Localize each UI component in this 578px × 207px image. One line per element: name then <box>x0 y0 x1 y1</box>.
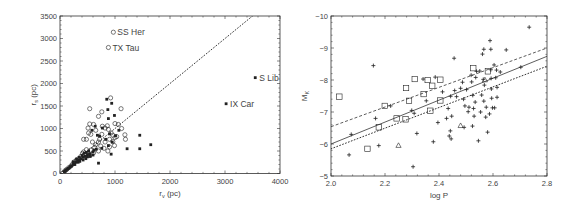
y-tick-label: −5 <box>319 172 328 181</box>
y-tick-label: 1000 <box>40 124 57 133</box>
data-point <box>149 143 152 146</box>
data-point <box>94 125 97 128</box>
data-point <box>106 45 110 49</box>
data-point <box>430 83 435 88</box>
data-point <box>472 106 476 110</box>
x-tick-label: 2000 <box>162 177 179 186</box>
figure: 0100020003000400005001000150020002500300… <box>0 0 578 207</box>
data-point <box>105 98 108 101</box>
data-point <box>489 47 493 51</box>
data-point <box>412 76 417 81</box>
data-point <box>467 105 471 109</box>
y-tick-label: 2500 <box>40 57 57 66</box>
data-point <box>101 127 104 130</box>
x-tick-label: 2.4 <box>434 179 444 188</box>
data-point <box>88 107 92 111</box>
data-point <box>504 48 508 52</box>
data-point <box>254 76 257 79</box>
data-point <box>470 80 474 84</box>
data-point <box>138 134 141 137</box>
data-point <box>107 144 110 147</box>
data-point <box>479 110 483 114</box>
data-point <box>82 137 86 141</box>
y-tick-label: 3000 <box>40 34 57 43</box>
x-axis-label: rv (pc) <box>159 189 181 199</box>
data-point <box>470 124 474 128</box>
data-point <box>93 149 96 152</box>
data-point <box>455 95 459 99</box>
y-tick-label: −8 <box>319 76 328 85</box>
data-point <box>347 153 351 157</box>
data-point <box>452 56 456 60</box>
plot-area <box>60 16 257 175</box>
data-point <box>349 132 353 136</box>
dashed-line <box>331 48 547 127</box>
data-point <box>411 165 415 169</box>
y-tick-label: −6 <box>319 140 328 149</box>
data-point <box>466 110 470 114</box>
data-point <box>86 126 90 130</box>
data-point <box>82 159 85 162</box>
x-tick-label: 2.6 <box>488 179 498 188</box>
data-point <box>471 65 476 70</box>
data-point <box>445 116 449 120</box>
data-point <box>86 155 89 158</box>
data-point <box>100 147 103 150</box>
solid-line <box>331 56 547 144</box>
x-tick-label: 0 <box>58 177 62 186</box>
data-point <box>478 69 482 73</box>
data-point <box>424 99 428 103</box>
plot-area <box>331 25 547 169</box>
right-scatter-plot: 2.02.22.42.62.8−10−9−8−7−6−5log PMK <box>300 12 552 200</box>
data-point <box>97 162 100 165</box>
data-point <box>425 77 430 82</box>
data-point <box>495 68 499 72</box>
data-point <box>403 85 408 90</box>
data-point <box>90 140 94 144</box>
data-point <box>484 115 488 119</box>
data-point <box>396 143 401 148</box>
data-point <box>88 122 92 126</box>
data-point <box>89 155 92 158</box>
y-tick-label: 0 <box>53 169 57 178</box>
y-tick-label: 3500 <box>40 12 57 21</box>
data-point <box>104 138 107 141</box>
data-point <box>446 106 450 110</box>
x-axis-label: log P <box>430 191 448 200</box>
data-point <box>377 144 381 148</box>
data-point <box>498 70 502 74</box>
data-point <box>119 107 123 111</box>
data-point <box>73 163 76 166</box>
data-point <box>441 90 445 94</box>
data-point <box>123 137 127 141</box>
left-scatter-plot: 0100020003000400005001000150020002500300… <box>29 12 288 199</box>
plus-series <box>347 25 531 169</box>
data-point <box>449 137 453 141</box>
data-point <box>488 39 492 43</box>
data-point <box>447 134 451 138</box>
data-point <box>374 116 378 120</box>
data-point <box>438 77 443 82</box>
data-point <box>123 133 127 137</box>
squares-series <box>337 65 491 151</box>
x-tick-label: 2.2 <box>380 179 390 188</box>
y-tick-label: 500 <box>44 147 57 156</box>
data-point <box>476 139 480 143</box>
data-point <box>450 114 454 118</box>
data-point <box>138 147 141 150</box>
y-tick-label: −9 <box>319 44 328 53</box>
data-point <box>448 129 452 133</box>
data-point <box>493 106 497 110</box>
data-point <box>495 95 499 99</box>
data-point <box>487 112 491 116</box>
y-tick-label: −7 <box>319 108 328 117</box>
data-point <box>473 100 477 104</box>
data-point <box>114 134 117 137</box>
data-point <box>92 154 95 157</box>
data-point <box>98 135 101 138</box>
data-point <box>389 104 393 108</box>
data-point <box>78 160 81 163</box>
filled-circles-series <box>63 76 257 173</box>
data-point <box>433 75 437 79</box>
star-label: SS Her <box>117 27 145 37</box>
